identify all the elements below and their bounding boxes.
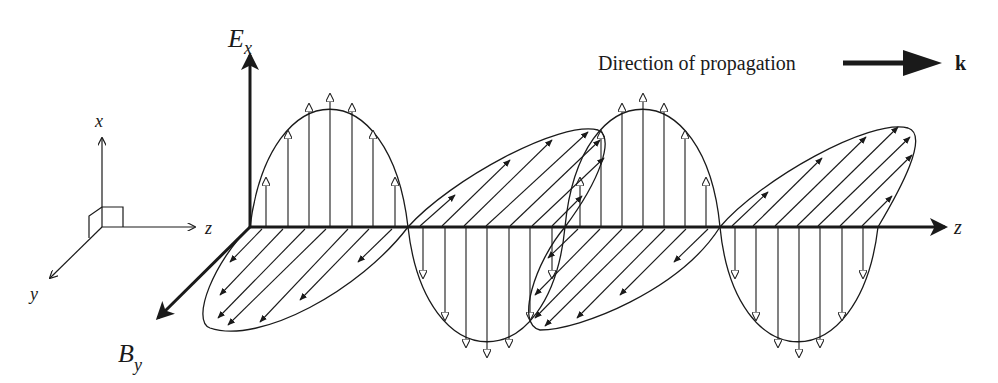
em-wave-diagram: x z y bbox=[0, 0, 998, 383]
ref-right-angle-xz bbox=[102, 207, 123, 227]
ref-y-label: y bbox=[28, 284, 38, 304]
ref-y-axis bbox=[50, 227, 102, 278]
b-field-wave bbox=[203, 127, 916, 331]
ref-z-label: z bbox=[204, 218, 212, 238]
b-lobe-3 bbox=[529, 227, 720, 330]
wave-vector-label: k bbox=[955, 52, 967, 74]
b-field-label: By bbox=[118, 339, 142, 375]
ref-x-label: x bbox=[94, 111, 103, 131]
b-lobe-4 bbox=[720, 127, 916, 227]
propagation-text: Direction of propagation bbox=[598, 52, 796, 75]
propagation-arrow-icon bbox=[843, 50, 942, 76]
z-axis-label: z bbox=[953, 216, 962, 238]
e-field-label: Ex bbox=[227, 24, 252, 58]
reference-axes bbox=[50, 138, 195, 278]
e-lobe-1 bbox=[250, 109, 408, 227]
